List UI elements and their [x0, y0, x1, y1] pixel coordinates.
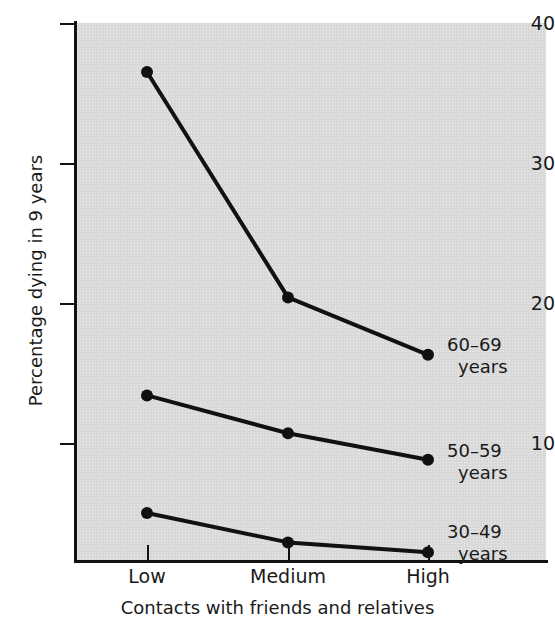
y-tick-label-20: 20: [499, 294, 555, 313]
y-tick-10: [60, 443, 77, 445]
series-label-60-69-line2: years: [447, 356, 508, 378]
x-axis-title: Contacts with friends and relatives: [0, 597, 555, 618]
x-tick-label-medium: Medium: [250, 566, 326, 587]
y-tick-40: [60, 23, 77, 25]
series-label-60-69-line1: 60–69: [447, 334, 502, 355]
y-tick-label-40: 40: [499, 14, 555, 33]
series-label-30-49-line2: years: [447, 543, 508, 565]
y-tick-label-30: 30: [499, 154, 555, 173]
y-axis-title: Percentage dying in 9 years: [25, 151, 46, 411]
series-label-30-49-line1: 30–49: [447, 521, 502, 542]
x-tick-label-high: High: [406, 566, 450, 587]
chart-figure: 40 30 20 10 Low Medium High Contacts wit…: [0, 0, 555, 637]
x-tick-medium: [288, 545, 290, 562]
series-label-60-69: 60–69 years: [447, 334, 508, 378]
y-tick-20: [60, 303, 77, 305]
series-label-50-59-line1: 50–59: [447, 440, 502, 461]
y-tick-30: [60, 163, 77, 165]
series-label-30-49: 30–49 years: [447, 521, 508, 565]
x-tick-label-low: Low: [128, 566, 165, 587]
series-label-50-59-line2: years: [447, 462, 508, 484]
x-tick-low: [147, 545, 149, 562]
series-label-50-59: 50–59 years: [447, 440, 508, 484]
y-axis-line: [74, 21, 77, 563]
x-tick-high: [428, 545, 430, 562]
